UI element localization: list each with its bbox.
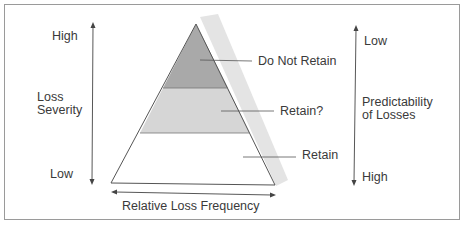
tier-label-retain-question: Retain?	[280, 104, 323, 118]
tier-label-retain: Retain	[302, 148, 338, 162]
tier-retain	[111, 133, 275, 185]
predictability-title-line2: of Losses	[362, 108, 416, 122]
tier-label-do-not-retain: Do Not Retain	[258, 54, 337, 68]
loss-severity-title-line1: Loss	[37, 90, 63, 104]
severity-high-label: High	[52, 29, 78, 43]
loss-frequency-arrow	[111, 190, 276, 198]
predictability-high-label: High	[362, 170, 388, 184]
loss-severity-title-line2: Severity	[37, 103, 82, 117]
tier-retain-question	[140, 88, 250, 133]
loss-severity-arrow	[90, 22, 96, 185]
severity-low-label: Low	[50, 167, 73, 181]
relative-loss-frequency-label: Relative Loss Frequency	[122, 199, 260, 213]
predictability-low-label: Low	[364, 34, 387, 48]
predictability-arrow	[352, 25, 359, 186]
predictability-title-line1: Predictability	[362, 95, 433, 109]
